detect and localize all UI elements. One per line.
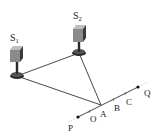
label-a: A xyxy=(100,109,107,119)
speaker-s2-icon xyxy=(72,25,86,56)
label-q: Q xyxy=(144,88,151,98)
line-s1-a xyxy=(17,76,101,105)
line-pq-ext-right xyxy=(138,82,148,87)
point-q-dot xyxy=(136,85,139,88)
point-p-dot xyxy=(76,115,79,118)
label-b: B xyxy=(114,103,120,113)
label-s1: S1 xyxy=(10,32,19,44)
diagram-canvas: S1 S2 P O A B C Q xyxy=(0,0,158,139)
line-s1-s2 xyxy=(17,53,79,76)
label-s2: S2 xyxy=(73,10,82,22)
label-p: P xyxy=(68,123,73,133)
line-s2-a xyxy=(79,53,101,105)
label-c: C xyxy=(126,97,132,107)
speaker-s1-icon xyxy=(10,46,24,79)
label-o: O xyxy=(90,114,97,124)
line-pq-ext-left xyxy=(68,117,78,122)
